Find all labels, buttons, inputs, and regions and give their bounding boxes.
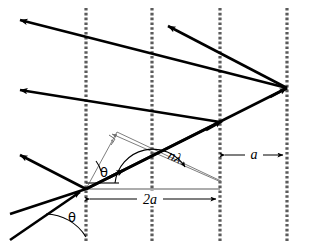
outgoing-ray-lower [20, 155, 86, 189]
bragg-diffraction-figure: 2a a nλ θ θ [0, 0, 309, 248]
rays-group [10, 20, 287, 240]
label-theta-upper: θ [100, 165, 108, 180]
label-path-difference: nλ [166, 147, 184, 166]
construction-lines-group [86, 132, 221, 189]
outgoing-ray-upper [168, 26, 287, 88]
label-2a: 2a [143, 192, 157, 207]
crystal-planes-group [86, 8, 287, 242]
outgoing-ray-middle [20, 90, 220, 122]
label-theta-lower: θ [68, 210, 76, 225]
main-ray-arrow-marker-3 [270, 88, 287, 97]
label-a: a [251, 147, 258, 162]
angle-arcs-group [46, 149, 185, 237]
angle-arc-theta-lower [46, 214, 86, 237]
diagram-canvas: 2a a nλ θ θ [0, 0, 309, 248]
